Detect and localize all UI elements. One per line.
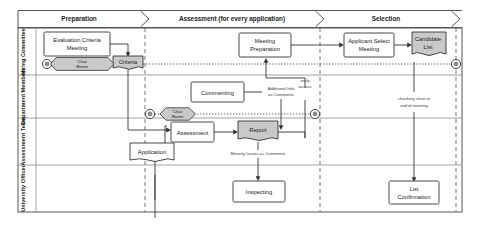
arrowhead-inspecting: [256, 176, 261, 181]
chat-room-label-department-line2: Room: [172, 114, 184, 119]
task-label-evaluation-criteria-meeting-line2: Meeting: [67, 45, 88, 51]
annotation-early-access: early access: [298, 78, 311, 89]
annotation-minority-issues: Minority Issues as Comments: [231, 151, 286, 156]
process-diagram-canvas: Preparation Assessment (for every applic…: [0, 0, 478, 225]
arrowhead-assessment-report: [233, 130, 238, 135]
task-inspecting[interactable]: Inspecting: [233, 181, 285, 202]
task-label-assessment: Assessment: [177, 130, 209, 136]
task-meeting-preparation[interactable]: Meeting Preparation: [239, 33, 291, 57]
artifact-label-report: Report: [249, 127, 267, 133]
task-label-meeting-preparation-line1: Meeting: [255, 38, 276, 44]
annotation-label-checking-close-line1: checking close to: [398, 96, 431, 101]
phase-header-band: Preparation Assessment (for every applic…: [18, 11, 462, 28]
lane-label-group: Hiring Committee Department Members Asse…: [20, 28, 26, 212]
task-label-applicant-select-meeting-line2: Meeting: [359, 46, 380, 52]
artifact-application[interactable]: Application: [130, 143, 174, 162]
artifact-candidate-list[interactable]: Candidate List: [412, 32, 446, 56]
task-list-confirmation[interactable]: List Confirmation: [389, 181, 439, 204]
lane-assessment-team-content: Assessment Report Application Minority I…: [130, 121, 285, 162]
bpmn-diagram: Preparation Assessment (for every applic…: [0, 0, 478, 225]
task-label-meeting-preparation-line2: Preparation: [250, 46, 280, 52]
task-label-list-confirmation-line1: List: [409, 186, 418, 192]
task-applicant-select-meeting[interactable]: Applicant Select Meeting: [344, 33, 394, 57]
flow-eval-to-criteria: [110, 44, 128, 53]
flow-report-right: [278, 132, 305, 138]
annotation-label-checking-close-line2: end of meeting: [400, 103, 428, 108]
phase-label-preparation: Preparation: [61, 15, 97, 23]
artifact-label-application: Application: [138, 149, 166, 155]
annotation-additional-info: Additional Info as Comments: [268, 86, 295, 97]
phase-label-selection: Selection: [372, 15, 401, 22]
artifact-criteria[interactable]: Criteria: [113, 56, 143, 69]
lane-hiring-committee-content: Evaluation Criteria Meeting Criteria Cha…: [42, 32, 460, 70]
artifact-label-candidate-list-line1: Candidate: [415, 36, 441, 42]
annotation-label-minority-issues: Minority Issues as Comments: [231, 151, 286, 156]
lane-label-department-members: Department Members: [20, 68, 26, 125]
lane-university-officer-content: Inspecting List Confirmation: [233, 181, 439, 204]
task-assessment[interactable]: Assessment: [171, 122, 214, 142]
artifact-label-criteria: Criteria: [119, 59, 138, 65]
annotation-label-additional-info-line1: Additional Info: [268, 86, 295, 91]
chat-room-label-committee-line2: Room: [76, 64, 88, 69]
task-commenting[interactable]: Commenting: [191, 82, 244, 102]
arrowhead-addinfo-report: [279, 125, 284, 130]
annotation-label-additional-info-line2: as Comments: [268, 92, 294, 97]
lane-label-assessment-team: Assessment Team: [20, 117, 26, 166]
task-evaluation-criteria-meeting[interactable]: Evaluation Criteria Meeting: [44, 32, 110, 56]
end-event-committee[interactable]: [451, 59, 460, 68]
artifact-report[interactable]: Report: [238, 121, 278, 141]
arrowhead-criteria-assessment: [166, 128, 171, 133]
annotation-checking-close: checking close to end of meeting: [398, 96, 431, 108]
end-event-department[interactable]: [310, 109, 319, 118]
artifact-label-candidate-list-line2: List: [423, 44, 432, 50]
task-label-list-confirmation-line2: Confirmation: [398, 194, 431, 200]
lane-label-university-officer: University Officer: [20, 164, 26, 211]
task-label-commenting: Commenting: [201, 90, 234, 96]
arrowhead-candidatelist: [407, 43, 412, 48]
chat-room-hiring-committee[interactable]: Chat Room: [51, 58, 114, 71]
flow-criteria-to-assessment: [128, 70, 167, 130]
start-event-department-chat[interactable]: [145, 109, 154, 118]
annotation-label-early-access-line2: access: [298, 84, 311, 89]
arrowhead-early-access: [264, 58, 269, 63]
annotation-label-early-access-line1: early: [300, 78, 310, 83]
lane-label-hiring-committee: Hiring Committee: [20, 28, 26, 75]
task-label-applicant-select-meeting-line1: Applicant Select: [348, 38, 390, 44]
task-label-inspecting: Inspecting: [246, 189, 272, 195]
task-label-evaluation-criteria-meeting-line1: Evaluation Criteria: [53, 37, 101, 43]
chat-room-department-members[interactable]: Chat Room: [160, 108, 196, 120]
phase-label-assessment: Assessment (for every application): [179, 15, 285, 23]
arrowhead-applicantselect: [339, 43, 344, 48]
